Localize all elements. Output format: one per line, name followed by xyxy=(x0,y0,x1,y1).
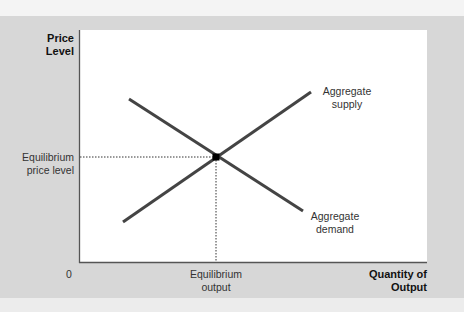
aggregate-demand-label-line1: Aggregate xyxy=(304,210,366,223)
equilibrium-point xyxy=(213,154,220,161)
aggregate-supply-label-line2: supply xyxy=(316,98,378,111)
aggregate-demand-label-line2: demand xyxy=(304,223,366,236)
aggregate-supply-label-line1: Aggregate xyxy=(316,85,378,98)
equilibrium-price-label-line1: Equilibrium xyxy=(4,151,74,164)
aggregate-supply-label: Aggregate supply xyxy=(316,85,378,111)
equilibrium-price-label-line2: price level xyxy=(4,164,74,177)
y-axis-title-line2: Level xyxy=(20,45,74,58)
x-axis-title-line1: Quantity of xyxy=(347,268,427,281)
equilibrium-price-label: Equilibrium price level xyxy=(4,151,74,177)
x-axis-title: Quantity of Output xyxy=(347,268,427,294)
equilibrium-output-label-line2: output xyxy=(184,281,248,294)
x-axis-title-line2: Output xyxy=(347,281,427,294)
origin-label: 0 xyxy=(66,268,72,281)
equilibrium-output-label-line1: Equilibrium xyxy=(184,268,248,281)
y-axis-title: Price Level xyxy=(20,32,74,58)
equilibrium-output-label: Equilibrium output xyxy=(184,268,248,294)
aggregate-demand-label: Aggregate demand xyxy=(304,210,366,236)
y-axis-title-line1: Price xyxy=(20,32,74,45)
